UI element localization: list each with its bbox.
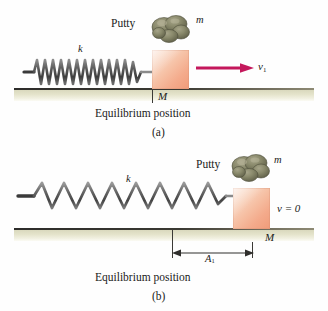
block-mass-a (152, 50, 189, 89)
spring-a (24, 56, 154, 88)
velocity-arrow-a (196, 62, 256, 74)
putty-mass-label-a: m (196, 15, 204, 26)
equilibrium-caption-b: Equilibrium position (95, 272, 191, 284)
velocity-label-b: v = 0 (277, 203, 300, 214)
panel-letter-b: (b) (152, 291, 165, 303)
amplitude-subscript-b: 1 (211, 257, 214, 264)
panel-a: k (0, 0, 328, 150)
spring-constant-label-a: k (78, 44, 83, 55)
spring-constant-label-b: k (126, 174, 131, 185)
panel-b: k (0, 150, 328, 311)
velocity-subscript-a: 1 (263, 66, 266, 73)
velocity-label-a: v1 (258, 61, 266, 73)
putty-blob-a (148, 14, 192, 44)
panel-letter-a: (a) (152, 127, 165, 139)
physics-figure: k (0, 0, 328, 311)
putty-blob-b (228, 153, 272, 183)
block-sheen-a (152, 50, 189, 89)
amplitude-label-b: A1 (205, 254, 215, 265)
putty-label-a: Putty (111, 18, 135, 30)
block-sheen-b (233, 188, 270, 229)
velocity-expression-b: v = 0 (277, 202, 300, 214)
block-mass-b (233, 188, 270, 229)
equilibrium-caption-a: Equilibrium position (95, 108, 191, 120)
putty-mass-label-b: m (274, 155, 282, 166)
block-mass-label-a: M (158, 91, 167, 102)
putty-label-b: Putty (196, 159, 220, 171)
block-mass-label-b: M (265, 232, 274, 243)
equilibrium-tick-a (152, 89, 153, 103)
